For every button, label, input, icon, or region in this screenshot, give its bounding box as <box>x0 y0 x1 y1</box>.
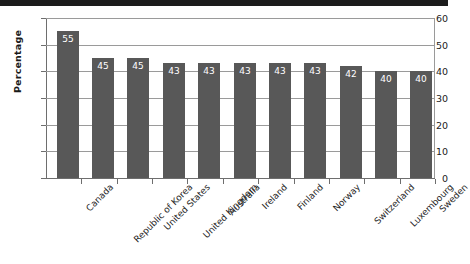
x-tick-mark <box>400 179 401 184</box>
bar: 45 <box>127 58 149 178</box>
x-tick-mark <box>258 179 259 184</box>
x-tick-label-text: Norway <box>331 182 362 213</box>
bar-value-label: 43 <box>304 66 326 76</box>
bar: 43 <box>198 63 220 178</box>
x-tick-label-text: Canada <box>84 182 115 213</box>
x-tick-label: Ireland <box>260 182 289 211</box>
bar-value-label: 43 <box>163 66 185 76</box>
y-axis-title: Percentage <box>12 17 23 107</box>
x-tick-mark <box>329 179 330 184</box>
x-tick-mark <box>81 179 82 184</box>
bar-value-label: 55 <box>57 34 79 44</box>
window-top-strip <box>0 0 448 6</box>
bar: 45 <box>92 58 114 178</box>
bar: 42 <box>340 66 362 178</box>
x-tick-mark <box>117 179 118 184</box>
x-tick-mark <box>152 179 153 184</box>
bar: 40 <box>410 71 432 178</box>
x-tick-label: Australia <box>227 182 262 217</box>
x-tick-label-text: Ireland <box>260 182 289 211</box>
bar-value-label: 43 <box>269 66 291 76</box>
x-tick-label: Norway <box>331 182 362 213</box>
bar: 43 <box>304 63 326 178</box>
bar: 55 <box>57 31 79 178</box>
x-tick-mark <box>294 179 295 184</box>
bar-value-label: 43 <box>234 66 256 76</box>
gridline <box>46 45 435 46</box>
x-tick-label-text: Finland <box>295 182 325 212</box>
x-tick-mark <box>364 179 365 184</box>
bar-value-label: 42 <box>340 69 362 79</box>
x-tick-mark <box>223 179 224 184</box>
x-axis-line <box>46 178 435 179</box>
x-tick-label: Canada <box>84 182 115 213</box>
x-tick-label-text: Australia <box>227 182 262 217</box>
bar: 40 <box>375 71 397 178</box>
x-tick-mark <box>435 179 436 184</box>
gridline <box>46 18 435 19</box>
x-tick-label: Finland <box>295 182 325 212</box>
plot-area: 5545454343434343424040 <box>46 18 435 178</box>
bar-value-label: 40 <box>410 74 432 84</box>
bar: 43 <box>269 63 291 178</box>
bar-value-label: 45 <box>127 61 149 71</box>
bar: 43 <box>163 63 185 178</box>
bar-value-label: 45 <box>92 61 114 71</box>
bar-value-label: 43 <box>198 66 220 76</box>
bar: 43 <box>234 63 256 178</box>
y-tick-mark <box>41 178 46 179</box>
bar-value-label: 40 <box>375 74 397 84</box>
